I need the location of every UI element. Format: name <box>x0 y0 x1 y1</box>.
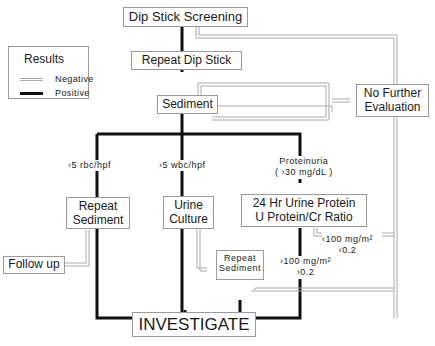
legend-negative-label: Negative <box>55 74 94 84</box>
node-label-line1: Repeat <box>217 253 263 263</box>
high-protein-line2: ›0.2 <box>280 267 331 278</box>
low-protein-line1: ‹100 mg/m² <box>322 234 373 245</box>
edge-label-wbc: ›5 wbc/hpf <box>159 160 206 171</box>
node-label-line2: Evaluation <box>357 101 428 115</box>
proteinuria-line1: Proteinuria <box>275 156 333 167</box>
node-label-line1: No Further <box>357 87 428 101</box>
node-label: Sediment <box>162 97 213 111</box>
node-sediment: Sediment <box>157 95 218 114</box>
node-investigate: INVESTIGATE <box>132 312 256 337</box>
node-repeat-sediment: Repeat Sediment <box>66 197 130 229</box>
high-protein-line1: ›100 mg/m² <box>280 256 331 267</box>
node-label-line2: Sediment <box>67 214 129 228</box>
node-no-further-evaluation: No Further Evaluation <box>356 84 429 117</box>
node-label-line2: Sediment <box>217 263 263 273</box>
node-urine-protein: 24 Hr Urine Protein U Protein/Cr Ratio <box>241 194 367 227</box>
negative-line-swatch <box>20 78 43 81</box>
legend-title: Results <box>24 52 64 66</box>
proteinuria-line2: ( ›30 mg/dL ) <box>275 167 333 178</box>
node-repeat-sediment-2: Repeat Sediment <box>216 250 264 280</box>
legend: Results Negative Positive <box>8 46 89 99</box>
node-urine-culture: Urine Culture <box>163 196 214 229</box>
edge-label-low-protein: ‹100 mg/m² ‹0.2 <box>322 234 373 257</box>
node-dipstick-screening: Dip Stick Screening <box>123 7 248 27</box>
node-label-line2: Culture <box>164 213 213 227</box>
edge-label-rbc: ›5 rbc/hpf <box>68 160 111 171</box>
node-repeat-dipstick: Repeat Dip Stick <box>131 51 242 70</box>
node-label: Follow up <box>8 257 59 271</box>
node-label: Dip Stick Screening <box>129 9 242 24</box>
low-protein-line2: ‹0.2 <box>322 245 373 256</box>
node-follow-up: Follow up <box>3 256 65 274</box>
node-label-line2: U Protein/Cr Ratio <box>242 211 366 225</box>
positive-line-swatch <box>20 92 43 95</box>
edge-label-high-protein: ›100 mg/m² ›0.2 <box>280 256 331 279</box>
edge-label-proteinuria: Proteinuria ( ›30 mg/dL ) <box>275 156 333 179</box>
node-label-line1: 24 Hr Urine Protein <box>242 197 366 211</box>
node-label-line1: Repeat <box>67 200 129 214</box>
node-label: INVESTIGATE <box>138 315 249 334</box>
node-label: Repeat Dip Stick <box>142 53 231 67</box>
node-label-line1: Urine <box>164 199 213 213</box>
legend-positive-label: Positive <box>55 88 90 98</box>
